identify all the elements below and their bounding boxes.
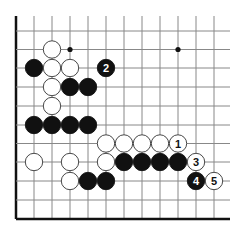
white-stone: [43, 78, 60, 95]
white-stone: [43, 97, 60, 114]
black-stone-icon: [61, 116, 78, 133]
white-stone-icon: [43, 78, 60, 95]
black-stone: [133, 153, 150, 170]
white-stone-icon: [97, 153, 114, 170]
white-stone-icon: [61, 153, 78, 170]
white-stone: [97, 135, 114, 152]
black-stone: [79, 116, 96, 133]
white-stone-icon: [133, 135, 150, 152]
move-number: 4: [193, 175, 200, 187]
black-stone-icon: [133, 153, 150, 170]
black-stone: [25, 59, 42, 76]
black-stone-icon: [169, 153, 186, 170]
black-stone: [169, 153, 186, 170]
white-stone: [61, 153, 78, 170]
black-stone-move-4: 4: [187, 172, 204, 189]
black-stone-icon: [61, 78, 78, 95]
white-stone-icon: [25, 153, 42, 170]
white-stone: [61, 172, 78, 189]
black-stone: [61, 78, 78, 95]
white-stone: [43, 59, 60, 76]
move-number: 5: [211, 175, 217, 187]
go-board: 21345: [0, 0, 243, 233]
star-point-icon: [67, 47, 72, 52]
white-stone: [115, 135, 132, 152]
black-stone: [43, 116, 60, 133]
black-stone-icon: [151, 153, 168, 170]
white-stone: [61, 59, 78, 76]
black-stone: [25, 116, 42, 133]
white-stone: [97, 153, 114, 170]
white-stone: [25, 153, 42, 170]
white-stone-move-5: 5: [205, 172, 222, 189]
black-stone-icon: [79, 78, 96, 95]
black-stone: [79, 78, 96, 95]
white-stone-icon: [97, 135, 114, 152]
black-stone-icon: [43, 116, 60, 133]
move-number: 1: [175, 138, 181, 150]
black-stone: [61, 116, 78, 133]
black-stone: [115, 153, 132, 170]
black-stone-move-2: 2: [97, 59, 114, 76]
move-number: 3: [193, 156, 199, 168]
white-stone: [133, 135, 150, 152]
white-stone-icon: [43, 97, 60, 114]
white-stone-icon: [115, 135, 132, 152]
star-point-icon: [175, 47, 180, 52]
black-stone-icon: [79, 172, 96, 189]
white-stone-move-1: 1: [169, 135, 186, 152]
white-stone-icon: [61, 172, 78, 189]
white-stone-move-3: 3: [187, 153, 204, 170]
black-stone: [79, 172, 96, 189]
white-stone: [151, 135, 168, 152]
black-stone-icon: [97, 172, 114, 189]
white-stone-icon: [43, 41, 60, 58]
white-stone-icon: [61, 59, 78, 76]
white-stone: [43, 41, 60, 58]
black-stone-icon: [115, 153, 132, 170]
black-stone: [97, 172, 114, 189]
black-stone: [151, 153, 168, 170]
white-stone-icon: [43, 59, 60, 76]
move-number: 2: [103, 62, 109, 74]
black-stone-icon: [25, 116, 42, 133]
white-stone-icon: [151, 135, 168, 152]
black-stone-icon: [25, 59, 42, 76]
black-stone-icon: [79, 116, 96, 133]
